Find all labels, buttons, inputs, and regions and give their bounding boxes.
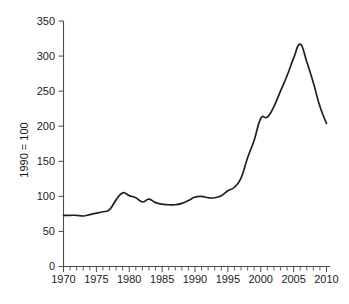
series-line-index [64,44,327,216]
line-chart: 050100150200250300350 1990 = 100 1970197… [0,0,349,304]
y-tick-label-350: 350 [37,15,55,27]
series-group [64,44,327,216]
x-tick-label-1980: 1980 [117,273,141,285]
x-axis-tick-labels: 197019751980198519901995200020052010 [51,273,338,285]
y-tick-label-150: 150 [37,155,55,167]
y-tick-label-0: 0 [49,260,55,272]
x-tick-label-1970: 1970 [51,273,75,285]
y-axis-ticks [59,21,64,267]
x-tick-label-1995: 1995 [216,273,240,285]
y-tick-label-300: 300 [37,50,55,62]
y-tick-label-50: 50 [43,225,55,237]
x-axis-group: 197019751980198519901995200020052010 [51,267,338,286]
y-tick-label-250: 250 [37,85,55,97]
y-tick-label-100: 100 [37,190,55,202]
x-tick-label-1975: 1975 [84,273,108,285]
x-tick-label-2000: 2000 [249,273,273,285]
x-tick-label-2005: 2005 [281,273,305,285]
y-axis-group: 050100150200250300350 1990 = 100 [18,15,64,273]
y-axis-tick-labels: 050100150200250300350 [37,15,55,273]
chart-container: 050100150200250300350 1990 = 100 1970197… [0,0,349,304]
x-axis-minor-ticks [64,267,327,273]
x-tick-label-2010: 2010 [314,273,338,285]
y-tick-label-200: 200 [37,120,55,132]
x-tick-label-1985: 1985 [150,273,174,285]
x-tick-label-1990: 1990 [183,273,207,285]
y-axis-title: 1990 = 100 [18,122,30,177]
